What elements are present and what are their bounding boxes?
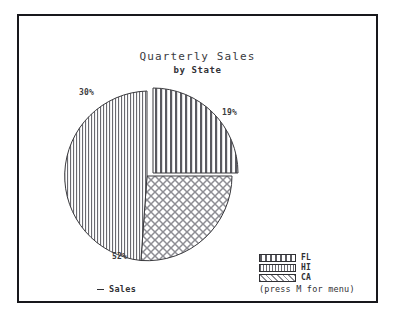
menu-hint-text: (press M for menu) (259, 284, 355, 294)
legend-label-fl: FL (301, 253, 311, 262)
chart-title: Quarterly Sales (19, 50, 376, 63)
series-dash-icon (97, 289, 104, 290)
chart-subtitle: by State (19, 65, 376, 75)
pie-slice-hi[interactable] (65, 91, 147, 261)
pie-label-fl: 19% (222, 108, 237, 117)
pie-slice-fl[interactable] (153, 88, 238, 173)
legend-swatch-ca (259, 274, 296, 282)
legend: FL HI CA (259, 253, 371, 283)
screen: Quarterly Sales by State 30% 19% 52% FL … (0, 0, 402, 321)
series-caption-label: Sales (109, 284, 136, 294)
legend-item-hi[interactable]: HI (259, 263, 371, 272)
legend-item-ca[interactable]: CA (259, 273, 371, 282)
pie-slice-ca[interactable] (141, 176, 232, 261)
legend-item-fl[interactable]: FL (259, 253, 371, 262)
pie-label-ca: 52% (112, 252, 127, 261)
legend-label-hi: HI (301, 263, 311, 272)
series-caption: Sales (97, 284, 136, 294)
legend-label-ca: CA (301, 273, 311, 282)
legend-swatch-fl (259, 254, 296, 262)
legend-swatch-hi (259, 264, 296, 272)
pie-label-hi: 30% (79, 88, 94, 97)
chart-window-frame: Quarterly Sales by State 30% 19% 52% FL … (17, 14, 378, 303)
